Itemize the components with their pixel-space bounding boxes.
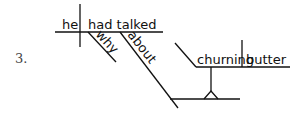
- word-object: butter: [246, 52, 287, 67]
- sentence-diagram: he had talked why about churning butter: [0, 0, 306, 116]
- gerund-step-line: [175, 43, 196, 67]
- word-verb: had talked: [88, 17, 157, 32]
- pedestal-triangle: [204, 91, 218, 99]
- word-subject: he: [62, 17, 78, 32]
